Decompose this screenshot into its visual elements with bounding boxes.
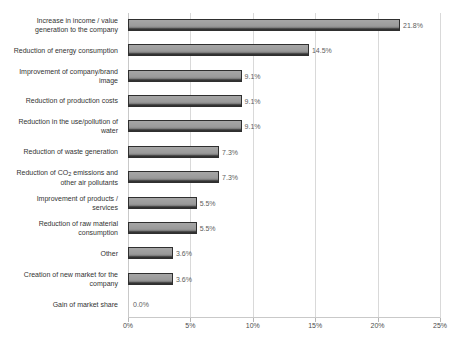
bar-wrap: 14.5% bbox=[128, 38, 440, 61]
category-label: Creation of new market for thecompany bbox=[0, 267, 118, 290]
bar-wrap: 3.6% bbox=[128, 242, 440, 265]
bar-value-label: 9.1% bbox=[245, 72, 261, 79]
category-label: Other bbox=[0, 242, 118, 265]
bar[interactable]: 7.3% bbox=[128, 171, 219, 183]
category-label: Improvement of products /services bbox=[0, 191, 118, 214]
bar-row: 0.0% bbox=[128, 293, 440, 316]
x-tick-label: 25% bbox=[433, 322, 447, 329]
category-label: Gain of market share bbox=[0, 293, 118, 316]
x-tick-label: 0% bbox=[123, 322, 133, 329]
plot-area: 21.8%14.5%9.1%9.1%9.1%7.3%7.3%5.5%5.5%3.… bbox=[128, 13, 440, 318]
bar-row: 5.5% bbox=[128, 191, 440, 214]
bar-value-label: 9.1% bbox=[245, 97, 261, 104]
category-label: Improvement of company/brandimage bbox=[0, 64, 118, 87]
category-label: Reduction of energy consumption bbox=[0, 38, 118, 61]
bar-rows: 21.8%14.5%9.1%9.1%9.1%7.3%7.3%5.5%5.5%3.… bbox=[128, 13, 440, 318]
bar-wrap: 9.1% bbox=[128, 89, 440, 112]
bar-wrap: 9.1% bbox=[128, 64, 440, 87]
bar-value-label: 0.0% bbox=[133, 301, 149, 308]
category-label: Reduction of production costs bbox=[0, 89, 118, 112]
bar-value-label: 14.5% bbox=[312, 47, 332, 54]
bar-row: 14.5% bbox=[128, 38, 440, 61]
bar-wrap: 7.3% bbox=[128, 140, 440, 163]
bar[interactable]: 3.6% bbox=[128, 273, 173, 285]
x-tick-label: 5% bbox=[185, 322, 195, 329]
bar[interactable]: 21.8% bbox=[128, 19, 400, 31]
category-label: Reduction in the use/pollution ofwater bbox=[0, 115, 118, 138]
bar[interactable]: 7.3% bbox=[128, 146, 219, 158]
bar-wrap: 5.5% bbox=[128, 191, 440, 214]
bar-wrap: 5.5% bbox=[128, 216, 440, 239]
bar-wrap: 0.0% bbox=[128, 293, 440, 316]
category-label: Increase in income / valuegeneration to … bbox=[0, 13, 118, 36]
x-tick-label: 15% bbox=[308, 322, 322, 329]
bar-row: 7.3% bbox=[128, 166, 440, 189]
bar[interactable]: 5.5% bbox=[128, 197, 197, 209]
x-tick-label: 20% bbox=[371, 322, 385, 329]
bar[interactable]: 9.1% bbox=[128, 120, 242, 132]
bar-value-label: 5.5% bbox=[200, 199, 216, 206]
bar[interactable]: 14.5% bbox=[128, 44, 309, 56]
bar-row: 9.1% bbox=[128, 115, 440, 138]
bar-row: 5.5% bbox=[128, 216, 440, 239]
bar-row: 3.6% bbox=[128, 267, 440, 290]
bar[interactable]: 5.5% bbox=[128, 222, 197, 234]
bar-value-label: 7.3% bbox=[222, 174, 238, 181]
category-label: Reduction of CO2 emissions andother air … bbox=[0, 166, 118, 189]
bar-row: 9.1% bbox=[128, 64, 440, 87]
category-label: Reduction of waste generation bbox=[0, 140, 118, 163]
x-tick-label: 10% bbox=[246, 322, 260, 329]
bar-row: 9.1% bbox=[128, 89, 440, 112]
category-axis-labels: Increase in income / valuegeneration to … bbox=[0, 13, 124, 318]
bar-wrap: 3.6% bbox=[128, 267, 440, 290]
bar-wrap: 7.3% bbox=[128, 166, 440, 189]
bar-value-label: 3.6% bbox=[176, 275, 192, 282]
bar-chart: Increase in income / valuegeneration to … bbox=[0, 0, 460, 350]
bar[interactable]: 9.1% bbox=[128, 95, 242, 107]
bar-row: 7.3% bbox=[128, 140, 440, 163]
bar-row: 3.6% bbox=[128, 242, 440, 265]
bar-value-label: 9.1% bbox=[245, 123, 261, 130]
category-label: Reduction of raw materialconsumption bbox=[0, 216, 118, 239]
gridline-25% bbox=[440, 13, 441, 318]
bar[interactable]: 3.6% bbox=[128, 247, 173, 259]
bar-wrap: 9.1% bbox=[128, 115, 440, 138]
bar-value-label: 7.3% bbox=[222, 148, 238, 155]
x-axis-tick-labels: 0%5%10%15%20%25% bbox=[128, 322, 440, 336]
bar-row: 21.8% bbox=[128, 13, 440, 36]
bar-value-label: 3.6% bbox=[176, 250, 192, 257]
bar-value-label: 21.8% bbox=[403, 21, 423, 28]
bar-value-label: 5.5% bbox=[200, 225, 216, 232]
bar-wrap: 21.8% bbox=[128, 13, 440, 36]
bar[interactable]: 9.1% bbox=[128, 70, 242, 82]
